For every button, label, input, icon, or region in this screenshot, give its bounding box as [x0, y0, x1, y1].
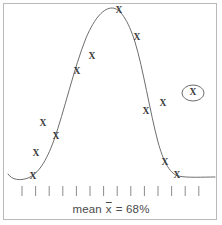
datapoint-group: XXXXXXXXXXXX — [30, 5, 181, 181]
datapoint-1: X — [30, 171, 37, 181]
datapoint-8: X — [134, 32, 141, 42]
caption-prefix: mean — [72, 203, 105, 215]
datapoint-3: X — [40, 118, 47, 128]
datapoint-12: X — [174, 170, 181, 180]
datapoint-6: X — [89, 51, 96, 61]
caption-suffix: = 68% — [112, 203, 149, 215]
datapoint-4: X — [53, 131, 60, 141]
outlier-x-mark: X — [190, 87, 197, 97]
plot-area: XXXXXXXXXXXX X — [0, 0, 222, 225]
datapoint-9: X — [143, 106, 150, 116]
datapoint-11: X — [162, 157, 169, 167]
outlier-group: X — [182, 85, 204, 101]
distribution-figure: XXXXXXXXXXXX X mean x = 68% — [0, 0, 222, 225]
datapoint-7: X — [116, 5, 123, 15]
mean-caption: mean x = 68% — [0, 203, 222, 215]
datapoint-10: X — [160, 98, 167, 108]
axis-tick-group — [22, 186, 199, 196]
datapoint-2: X — [33, 148, 40, 158]
datapoint-5: X — [74, 66, 81, 76]
